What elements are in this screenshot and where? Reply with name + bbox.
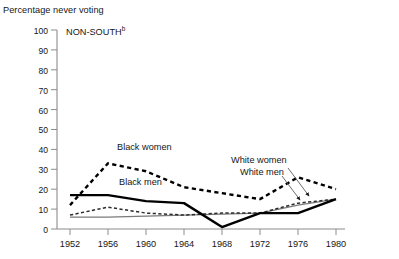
x-tick-label: 1972 [240,239,280,249]
y-tick-label: 100 [22,26,48,36]
y-tick-label: 30 [22,165,48,175]
y-tick-marks [51,30,57,229]
y-tick-label: 40 [22,145,48,155]
y-tick-label: 80 [22,66,48,76]
leader-line-white-men [282,176,300,200]
x-tick-marks [70,229,336,235]
y-tick-label: 50 [22,125,48,135]
x-tick-label: 1968 [202,239,242,249]
series-label-white-men: White men [240,167,284,177]
y-tick-label: 70 [22,86,48,96]
series-line-black-men [70,195,336,227]
y-tick-label: 0 [22,225,48,235]
y-tick-label: 90 [22,46,48,56]
plot-area [0,0,399,259]
chart-container: Percentage never voting NON-SOUTHb [0,0,399,259]
y-tick-label: 60 [22,106,48,116]
y-tick-label: 10 [22,205,48,215]
leader-line-white-women [288,168,309,196]
series-label-black-women: Black women [117,142,172,152]
series-label-white-women: White women [231,155,287,165]
x-tick-label: 1980 [316,239,356,249]
y-tick-label: 20 [22,185,48,195]
x-tick-label: 1964 [164,239,204,249]
x-tick-label: 1952 [50,239,90,249]
x-tick-label: 1976 [278,239,318,249]
series-label-black-men: Black men [119,177,162,187]
series-line-black-women [70,163,336,205]
x-tick-label: 1956 [88,239,128,249]
x-tick-label: 1960 [126,239,166,249]
